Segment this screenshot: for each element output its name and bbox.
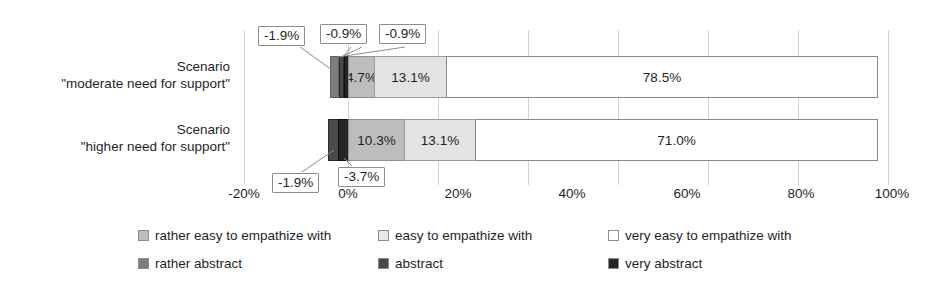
callout-higher-abstract[interactable]: -3.7% xyxy=(338,167,385,187)
legend-swatch-icon xyxy=(608,258,619,269)
callout-moderate-very-abstract[interactable]: -0.9% xyxy=(379,24,426,44)
segment-very-easy[interactable]: 71.0% xyxy=(475,119,878,161)
segment-rather-easy[interactable]: 4.7% xyxy=(348,56,375,98)
xtick-100: 100% xyxy=(857,186,927,201)
legend-item-very-abstract[interactable]: very abstract xyxy=(608,256,702,271)
legend-item-very-easy[interactable]: very easy to empathize with xyxy=(608,228,792,243)
stacked-bar-chart: Scenario "moderate need for support" Sce… xyxy=(0,0,945,296)
callout-moderate-abstract[interactable]: -0.9% xyxy=(320,24,367,44)
legend-item-abstract[interactable]: abstract xyxy=(378,256,443,271)
gridline-40 xyxy=(528,30,529,185)
xtick-40: 40% xyxy=(537,186,607,201)
plot-area: Scenario "moderate need for support" Sce… xyxy=(0,0,945,215)
segment-value-label: 4.7% xyxy=(348,70,375,85)
legend-label: abstract xyxy=(395,256,443,271)
legend-swatch-icon xyxy=(138,230,149,241)
xtick-80: 80% xyxy=(766,186,836,201)
segment-rather-easy[interactable]: 10.3% xyxy=(348,119,405,161)
gridline-80 xyxy=(708,30,709,185)
xtick-60: 60% xyxy=(652,186,722,201)
gridline-100 xyxy=(888,30,889,185)
segment-value-label: 13.1% xyxy=(421,133,459,148)
legend-label: rather abstract xyxy=(155,256,242,271)
gridline-0 xyxy=(348,30,349,185)
legend-label: very abstract xyxy=(625,256,702,271)
legend-item-rather-abstract[interactable]: rather abstract xyxy=(138,256,242,271)
legend-item-easy[interactable]: easy to empathize with xyxy=(378,228,532,243)
segment-rather-abstract[interactable] xyxy=(330,56,339,98)
segment-very-easy[interactable]: 78.5% xyxy=(446,56,878,98)
gridline-20 xyxy=(438,30,439,185)
segment-value-label: 71.0% xyxy=(657,133,695,148)
gridline-90 xyxy=(798,30,799,185)
legend-swatch-icon xyxy=(138,258,149,269)
xtick--20: -20% xyxy=(209,186,279,201)
segment-value-label: 13.1% xyxy=(391,70,429,85)
gridline--20 xyxy=(244,30,245,185)
legend-swatch-icon xyxy=(378,230,389,241)
segment-value-label: 78.5% xyxy=(643,70,681,85)
callout-higher-very-abstract[interactable]: -1.9% xyxy=(272,173,319,193)
callout-leader-lines xyxy=(0,0,945,215)
xtick-20: 20% xyxy=(423,186,493,201)
bar-row-higher: 10.3% 13.1% 71.0% xyxy=(0,119,945,161)
legend-swatch-icon xyxy=(608,230,619,241)
xtick-0: 0% xyxy=(313,186,383,201)
gridline-60 xyxy=(618,30,619,185)
legend-label: very easy to empathize with xyxy=(625,228,792,243)
chart-legend: rather easy to empathize with easy to em… xyxy=(138,228,928,284)
segment-easy[interactable]: 13.1% xyxy=(404,119,476,161)
segment-value-label: 10.3% xyxy=(357,133,395,148)
legend-label: rather easy to empathize with xyxy=(155,228,331,243)
callout-moderate-rather-abstract[interactable]: -1.9% xyxy=(258,26,305,46)
legend-swatch-icon xyxy=(378,258,389,269)
legend-label: easy to empathize with xyxy=(395,228,532,243)
legend-item-rather-easy[interactable]: rather easy to empathize with xyxy=(138,228,331,243)
segment-easy[interactable]: 13.1% xyxy=(374,56,447,98)
bar-row-moderate: 4.7% 13.1% 78.5% xyxy=(0,56,945,98)
